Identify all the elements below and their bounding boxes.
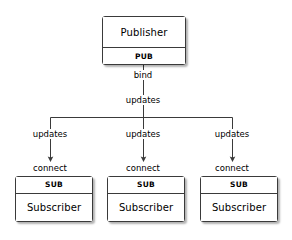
pubsub-diagram: Publisher PUB bind updates updates updat… xyxy=(0,0,292,240)
node-subscriber-3[interactable]: SUB Subscriber xyxy=(200,176,278,222)
edge-label-connect-1: connect xyxy=(32,163,68,173)
subscriber-2-socket-sub: SUB xyxy=(108,177,184,193)
edge-label-updates-branch-2: updates xyxy=(125,129,161,139)
edge-label-connect-2: connect xyxy=(125,163,161,173)
node-subscriber-1[interactable]: SUB Subscriber xyxy=(15,176,93,222)
subscriber-2-title: Subscriber xyxy=(108,193,184,221)
subscriber-1-title: Subscriber xyxy=(16,193,92,221)
publisher-title: Publisher xyxy=(103,17,185,47)
node-subscriber-2[interactable]: SUB Subscriber xyxy=(107,176,185,222)
edge-label-updates-branch-3: updates xyxy=(214,129,250,139)
node-publisher[interactable]: Publisher PUB xyxy=(102,16,186,65)
subscriber-3-socket-sub: SUB xyxy=(201,177,277,193)
edge-label-updates-branch-1: updates xyxy=(32,129,68,139)
edge-label-bind: bind xyxy=(133,70,154,80)
subscriber-3-title: Subscriber xyxy=(201,193,277,221)
edge-label-connect-3: connect xyxy=(214,163,250,173)
publisher-socket-pub: PUB xyxy=(103,47,185,64)
subscriber-1-socket-sub: SUB xyxy=(16,177,92,193)
edge-label-updates-trunk: updates xyxy=(125,95,161,105)
